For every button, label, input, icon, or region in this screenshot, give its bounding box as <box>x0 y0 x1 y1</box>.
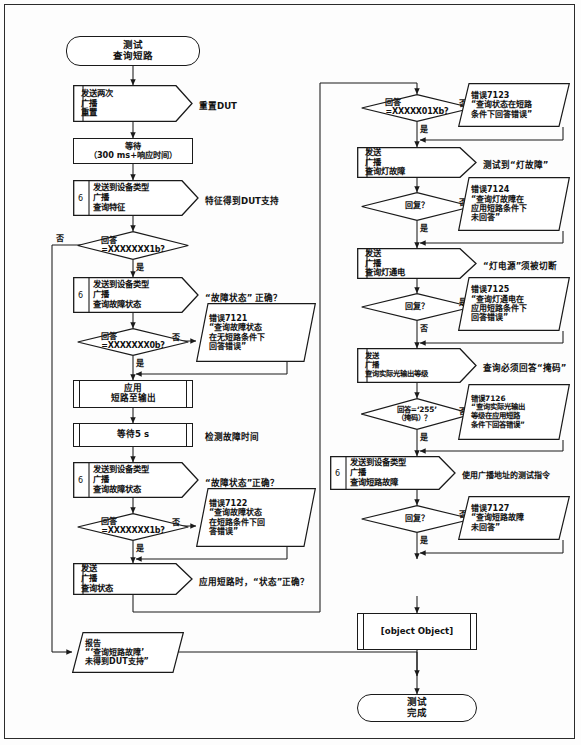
decision-reply-lamp-failure: 回复？ <box>361 192 473 221</box>
error-7127-box: 错误7127 “查询短路故障 未回答” <box>458 496 570 540</box>
decision-reply-lamp-power-on: 回复？ <box>361 293 473 321</box>
note-fault-status-correct-2: “故障状态”正确？ <box>205 476 279 488</box>
error-7125-box: 错误7125 “查询灯通电在 应用短路条件下 回答错误” <box>458 277 570 331</box>
error-7124-box: 错误7124 “查询灯故障在 应用短路条件下 未回答” <box>458 177 570 231</box>
wait-5s-box: 等待5 s <box>73 423 193 447</box>
note-query-must-reply-mask: 查询必须回答“掩码” <box>483 361 566 373</box>
note-status-correct-under-short: 应用短路时，“状态”正确？ <box>199 575 309 587</box>
report-not-supported-box: 报告 “‘查询短路故障’ 未得到DUT支持” <box>72 632 184 673</box>
start-terminal-label: 测试 查询短路 <box>113 40 153 61</box>
decision-8-yes-label: 是 <box>420 534 428 545</box>
send-query-lamp-power-on: 发送 广播 查询灯通电 <box>357 248 477 279</box>
send-query-fault-status-1-label: 发送到设备类型 广播 查询故障状态 <box>73 277 199 313</box>
decision-7-label: 回答=‘255’ （掩码）？ <box>361 398 473 430</box>
error-7121-label: 错误7121 “查询故障状态 在无短路条件下 回答错误” <box>196 303 316 362</box>
error-7125-label: 错误7125 “查询灯通电在 应用短路条件下 回答错误” <box>458 277 570 331</box>
clear-short-circuit-label: [object Object] <box>381 627 453 637</box>
decision-7-yes-label: 是 <box>420 431 428 442</box>
decision-1-label: 回答 =XXXXXXX1b? <box>77 231 189 260</box>
send-query-fault-status-2-label: 发送到设备类型 广播 查询故障状态 <box>73 462 199 498</box>
send-query-features-label: 发送到设备类型 广播 查询特征 <box>73 180 199 216</box>
end-terminal: 测试 完成 <box>357 694 477 722</box>
error-7122-label: 错误7122 “查询故障状态 在短路条件下回 答错误” <box>196 488 316 547</box>
note-broadcast-address-test-command: 使用广播地址的测试指令 <box>462 469 550 480</box>
note-reset-dut: 重置DUT <box>199 99 237 111</box>
flowchart-page: 测试 查询短路 发送两次 广播 重置 重置DUT 等待 （300 ms+响应时间… <box>0 0 581 745</box>
report-not-supported-label: 报告 “‘查询短路故障’ 未得到DUT支持” <box>72 632 184 673</box>
note-fault-status-correct-1: “故障状态” 正确？ <box>205 291 282 303</box>
decision-2-yes-label: 是 <box>136 357 144 368</box>
error-7127-label: 错误7127 “查询短路故障 未回答” <box>458 496 570 540</box>
wait-5s-label: 等待5 s <box>117 430 149 440</box>
decision-1-yes-label: 是 <box>136 261 144 272</box>
note-detect-fault-time: 检测故障时间 <box>205 430 259 442</box>
send-query-fault-status-1: 6 发送到设备类型 广播 查询故障状态 <box>73 277 199 313</box>
decision-4-yes-label: 是 <box>420 123 428 134</box>
error-7122-box: 错误7122 “查询故障状态 在短路条件下回 答错误” <box>196 488 316 547</box>
decision-answer-xxxxx01xb: 回答 =XXXXX01Xb? <box>361 94 473 122</box>
decision-answer-255-mask: 回答=‘255’ （掩码）？ <box>361 398 473 430</box>
wait-box: 等待 （300 ms+响应时间） <box>73 138 193 164</box>
decision-1-no-label: 否 <box>56 232 64 243</box>
wait-box-label: 等待 （300 ms+响应时间） <box>89 142 177 160</box>
decision-6-label: 回复？ <box>361 293 473 321</box>
decision-reply-short-circuit-failure: 回复？ <box>361 505 473 533</box>
error-7124-label: 错误7124 “查询灯故障在 应用短路条件下 未回答” <box>458 177 570 231</box>
send-query-features: 6 发送到设备类型 广播 查询特征 <box>73 180 199 216</box>
send-broadcast-reset-label: 发送两次 广播 重置 <box>73 85 193 122</box>
decision-3-no-label: 否 <box>172 516 180 527</box>
error-7123-box: 错误7123 “查询状态在短路 条件下回答错误” <box>458 83 570 127</box>
decision-2-no-label: 否 <box>172 331 180 342</box>
send-broadcast-reset: 发送两次 广播 重置 <box>73 85 193 122</box>
clear-short-circuit-box: [object Object] <box>357 613 477 650</box>
send-query-short-circuit-failure: 6 发送到设备类型 广播 查询短路故障 <box>330 456 456 490</box>
apply-short-label: 应用 短路至输出 <box>111 384 156 403</box>
note-feature-supported: 特征得到DUT支持 <box>205 194 279 206</box>
error-7123-label: 错误7123 “查询状态在短路 条件下回答错误” <box>458 83 570 127</box>
apply-short-to-output: 应用 短路至输出 <box>73 380 193 408</box>
end-terminal-label: 测试 完成 <box>407 697 427 718</box>
error-7121-box: 错误7121 “查询故障状态 在无短路条件下 回答错误” <box>196 303 316 362</box>
send-query-actual-light-output-label: 发送 广播 查询实际光输出等级 <box>357 348 477 383</box>
note-lamp-power-must-be-cut: “灯电源”须被切断 <box>483 259 557 271</box>
error-7126-box: 错误7126 “查询实际光输出 等级在应用短路 条件下回答错误” <box>458 384 570 440</box>
decision-answer-xxxxxxx1b-a: 回答 =XXXXXXX1b? <box>77 231 189 260</box>
decision-8-label: 回复？ <box>361 505 473 533</box>
send-query-lamp-power-on-label: 发送 广播 查询灯通电 <box>357 248 477 279</box>
send-query-short-circuit-failure-label: 发送到设备类型 广播 查询短路故障 <box>330 456 456 490</box>
send-query-fault-status-2: 6 发送到设备类型 广播 查询故障状态 <box>73 462 199 498</box>
decision-5-yes-label: 是 <box>420 222 428 233</box>
send-query-actual-light-output: 发送 广播 查询实际光输出等级 <box>357 348 477 383</box>
send-query-lamp-failure: 发送 广播 查询灯故障 <box>357 147 477 178</box>
send-query-status-label: 发送 广播 查询状态 <box>73 563 193 595</box>
error-7126-label: 错误7126 “查询实际光输出 等级在应用短路 条件下回答错误” <box>458 384 570 440</box>
decision-4-label: 回答 =XXXXX01Xb? <box>361 94 473 122</box>
decision-3-yes-label: 是 <box>136 542 144 553</box>
decision-5-label: 回复？ <box>361 192 473 221</box>
decision-6-no-label: 否 <box>420 322 428 333</box>
start-terminal: 测试 查询短路 <box>66 36 200 66</box>
send-query-status: 发送 广播 查询状态 <box>73 563 193 595</box>
send-query-lamp-failure-label: 发送 广播 查询灯故障 <box>357 147 477 178</box>
note-test-lamp-failure: 测试到“灯故障” <box>483 158 548 170</box>
